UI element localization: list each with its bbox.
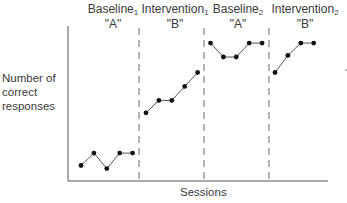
data-point <box>104 166 109 171</box>
data-point <box>286 53 291 58</box>
data-point <box>247 41 252 46</box>
data-point <box>273 70 278 75</box>
data-point <box>144 110 149 115</box>
chart-plot-area <box>0 0 347 203</box>
data-point <box>234 55 239 60</box>
phase-line <box>146 73 198 113</box>
data-point <box>182 84 187 89</box>
data-point <box>260 41 265 46</box>
data-series <box>79 41 317 171</box>
data-point <box>298 41 303 46</box>
data-point <box>79 163 84 168</box>
data-point <box>311 41 316 46</box>
data-point <box>130 151 135 156</box>
data-point <box>195 70 200 75</box>
data-point <box>157 98 162 103</box>
data-point <box>169 98 174 103</box>
data-point <box>92 151 97 156</box>
phase-separators <box>139 28 269 181</box>
data-point <box>221 55 226 60</box>
data-point <box>117 151 122 156</box>
phase-line <box>275 43 314 72</box>
data-point <box>208 41 213 46</box>
